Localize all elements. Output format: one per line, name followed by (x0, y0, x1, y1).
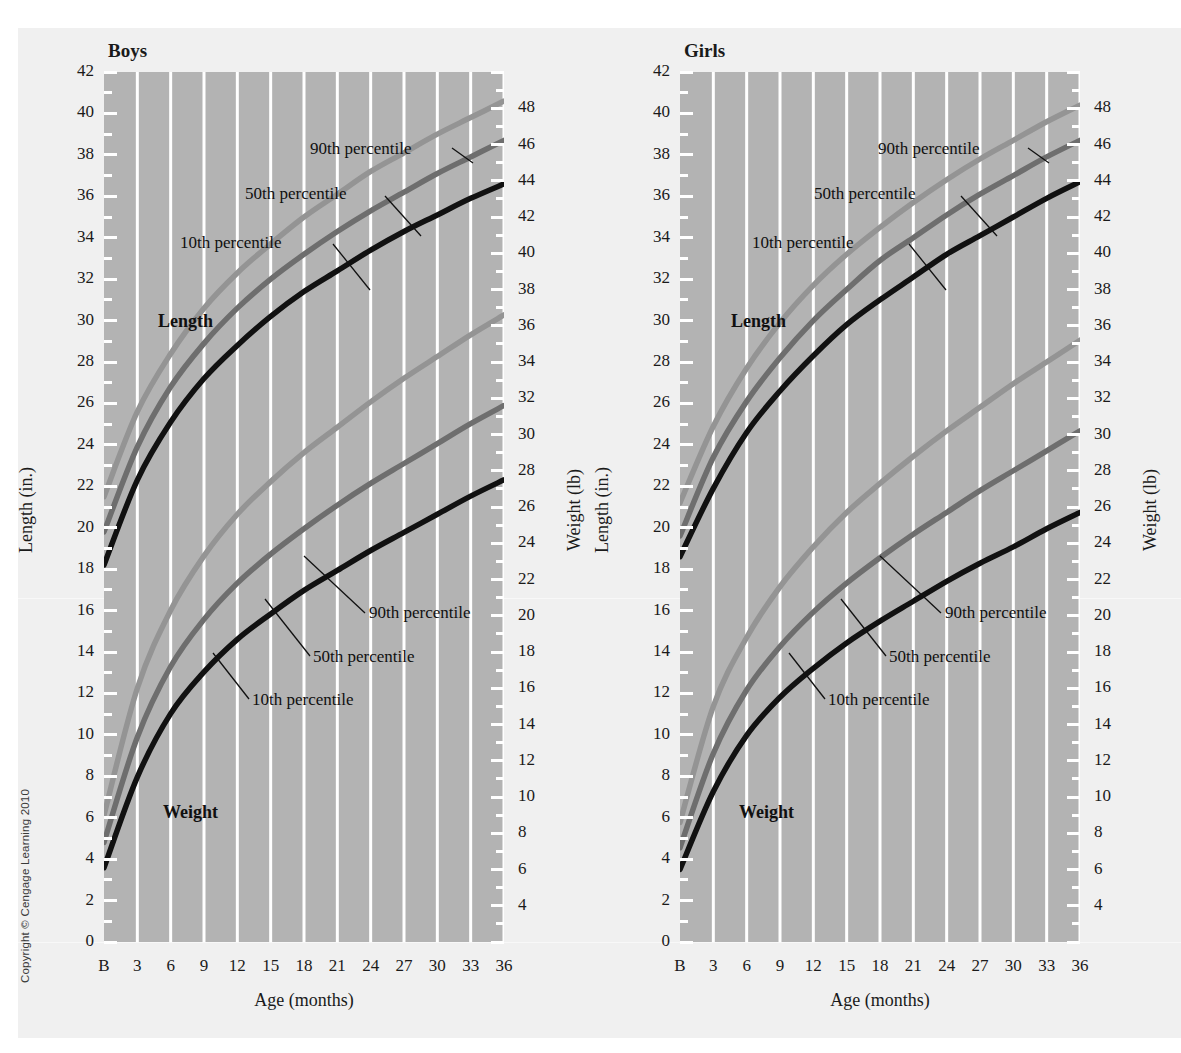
axis-tick (104, 71, 117, 74)
axis-tick (1072, 632, 1080, 635)
axis-tick (104, 91, 112, 94)
axis-tick (491, 288, 504, 291)
axis-tick (104, 878, 112, 881)
axis-tick (680, 464, 688, 467)
y-tick-label-left: 40 (56, 102, 94, 122)
axis-tick (680, 878, 688, 881)
series-label-weight-boys: Weight (163, 802, 218, 823)
y-tick-label-right: 6 (1094, 859, 1132, 879)
axis-tick (104, 609, 117, 612)
chart-title-boys: Boys (108, 40, 147, 62)
axis-tick (680, 133, 688, 136)
y-tick-label-right: 16 (518, 677, 556, 697)
axis-tick (680, 526, 693, 529)
axis-tick (491, 324, 504, 327)
annotation-weight-p50-boys: 50th percentile (313, 647, 415, 667)
axis-tick (496, 415, 504, 418)
y-tick-label-left: 20 (632, 517, 670, 537)
y-tick-label-left: 16 (56, 600, 94, 620)
series-label-length-boys: Length (158, 311, 213, 332)
y-tick-label-right: 18 (518, 641, 556, 661)
y-tick-label-right: 40 (1094, 242, 1132, 262)
axis-tick (680, 775, 693, 778)
axis-tick (491, 179, 504, 182)
axis-tick (680, 609, 693, 612)
axis-tick (104, 588, 112, 591)
axis-tick (1067, 361, 1080, 364)
axis-tick (491, 143, 504, 146)
axis-tick (1072, 451, 1080, 454)
annotation-length-p50-boys: 50th percentile (245, 184, 347, 204)
axis-tick (104, 651, 117, 654)
y-tick-label-right: 40 (518, 242, 556, 262)
axis-tick (496, 270, 504, 273)
axis-tick (496, 850, 504, 853)
series-label-weight-girls: Weight (739, 802, 794, 823)
axis-tick (1072, 379, 1080, 382)
y-tick-label-left: 34 (56, 227, 94, 247)
axis-tick (104, 216, 112, 219)
axis-tick (1072, 197, 1080, 200)
axis-tick (104, 775, 117, 778)
axis-tick (104, 858, 117, 861)
axis-tick (491, 433, 504, 436)
y-axis-title-left-girls: Length (in.) (592, 440, 612, 580)
axis-tick (496, 741, 504, 744)
axis-tick (491, 71, 504, 74)
annotation-length-p90-boys: 90th percentile (310, 139, 412, 159)
axis-tick (496, 777, 504, 780)
y-tick-label-left: 24 (632, 434, 670, 454)
axis-tick (496, 886, 504, 889)
y-tick-label-left: 26 (632, 392, 670, 412)
axis-tick (496, 487, 504, 490)
series-label-length-girls: Length (731, 311, 786, 332)
y-tick-label-left: 24 (56, 434, 94, 454)
axis-tick (104, 112, 117, 115)
axis-tick (104, 298, 112, 301)
y-tick-label-right: 26 (1094, 496, 1132, 516)
axis-tick (680, 278, 693, 281)
axis-tick (1067, 542, 1080, 545)
y-tick-label-left: 4 (632, 848, 670, 868)
y-tick-label-right: 4 (518, 895, 556, 915)
y-tick-label-right: 46 (1094, 134, 1132, 154)
axis-tick (104, 340, 112, 343)
y-tick-label-right: 34 (518, 351, 556, 371)
axis-tick (496, 560, 504, 563)
y-tick-label-left: 22 (56, 475, 94, 495)
y-tick-label-right: 10 (1094, 786, 1132, 806)
axis-tick (491, 904, 504, 907)
y-tick-label-right: 48 (1094, 97, 1132, 117)
axis-tick (680, 381, 688, 384)
axis-tick (491, 578, 504, 581)
y-tick-label-left: 2 (632, 890, 670, 910)
axis-tick (680, 899, 693, 902)
axis-tick (1072, 161, 1080, 164)
y-tick-label-right: 30 (1094, 424, 1132, 444)
axis-tick (496, 379, 504, 382)
axis-tick (496, 922, 504, 925)
annotation-length-p10-boys: 10th percentile (180, 233, 282, 253)
axis-tick (1067, 252, 1080, 255)
y-tick-label-right: 24 (518, 532, 556, 552)
axis-tick (1067, 832, 1080, 835)
y-tick-label-left: 12 (632, 682, 670, 702)
axis-tick (496, 125, 504, 128)
annotation-weight-p50-girls: 50th percentile (889, 647, 991, 667)
y-tick-label-left: 28 (632, 351, 670, 371)
y-tick-label-right: 36 (518, 315, 556, 335)
axis-tick (496, 524, 504, 527)
axis-tick (104, 195, 117, 198)
y-tick-label-left: 28 (56, 351, 94, 371)
axis-tick (104, 547, 112, 550)
y-tick-label-right: 48 (518, 97, 556, 117)
axis-tick (680, 174, 688, 177)
y-tick-label-right: 38 (1094, 279, 1132, 299)
axis-tick (491, 651, 504, 654)
y-tick-label-right: 28 (518, 460, 556, 480)
y-tick-label-right: 16 (1094, 677, 1132, 697)
axis-tick (104, 361, 117, 364)
axis-tick (104, 630, 112, 633)
y-tick-label-left: 18 (56, 558, 94, 578)
y-tick-label-right: 20 (1094, 605, 1132, 625)
